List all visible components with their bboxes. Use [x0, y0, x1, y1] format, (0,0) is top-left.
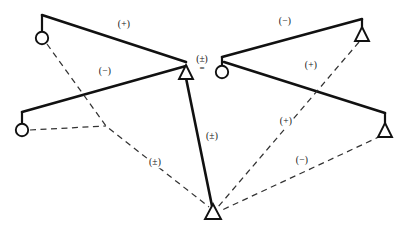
center-equivalence-annotation: (±) = [196, 55, 208, 73]
node-L1-circle [36, 32, 48, 44]
edge-label-L3-C: (±) [205, 132, 219, 142]
figure-canvas [0, 0, 409, 231]
edge-L1-L3-solid [42, 15, 186, 62]
node-R3-triangle [378, 123, 392, 137]
edge-label-R3-C: (−) [295, 156, 309, 166]
edge-label-R1-R3: (+) [304, 61, 318, 71]
edge-L3-C-solid [186, 78, 212, 206]
signed-graph-figure: (+) (−) (±) (±) (−) (+) (+) (−) (±) = [0, 0, 409, 231]
edge-label-L1-L3: (+) [117, 20, 131, 30]
edge-label-R1-R2: (−) [278, 17, 292, 27]
edge-label-L1-C: (±) [148, 158, 162, 168]
node-R2-triangle [355, 27, 369, 41]
equals-symbol: = [196, 64, 208, 73]
edge-label-L2-L3: (−) [98, 67, 112, 77]
edge-R3-C-dashed [220, 136, 381, 211]
left-dashed-edges [30, 44, 209, 207]
edge-label-R2-C: (+) [279, 117, 293, 127]
left-solid-edges [22, 15, 212, 206]
node-center-bottom-triangle [205, 204, 221, 219]
node-L2-circle [16, 124, 28, 136]
edge-L2-kink-dashed [30, 126, 106, 130]
node-R1-circle [216, 66, 228, 78]
